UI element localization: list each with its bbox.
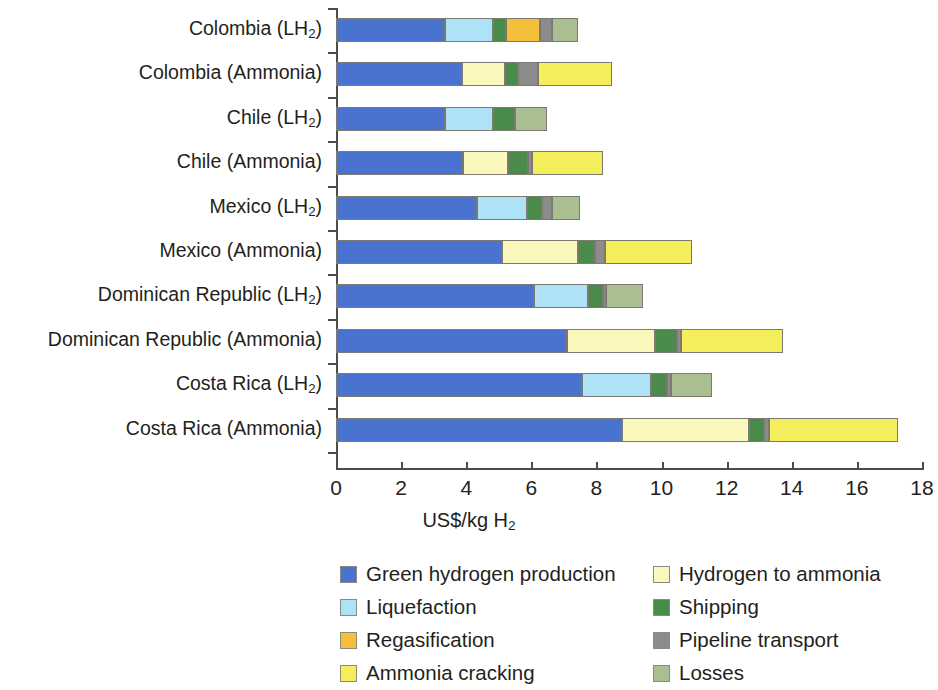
y-tick bbox=[328, 452, 336, 454]
bar-segment-shipping bbox=[493, 18, 506, 42]
bar-segment-pipeline-transport bbox=[595, 240, 605, 264]
bar-segment-ammonia-cracking bbox=[769, 418, 898, 442]
bar-segment-liquefaction bbox=[445, 18, 493, 42]
x-tick bbox=[922, 462, 924, 469]
legend-item-green-hydrogen-production[interactable]: Green hydrogen production bbox=[340, 564, 653, 585]
bar-segment-ammonia-cracking bbox=[532, 151, 603, 175]
legend-swatch-icon bbox=[653, 632, 670, 649]
y-axis-label: Colombia (Ammonia) bbox=[139, 63, 322, 83]
bar-segment-shipping bbox=[749, 418, 764, 442]
chart-legend: Green hydrogen productionHydrogen to amm… bbox=[340, 558, 938, 690]
y-tick bbox=[328, 230, 336, 232]
y-axis-label: Costa Rica (LH2) bbox=[176, 374, 322, 395]
y-tick bbox=[328, 8, 336, 10]
bar-segment-pipeline-transport bbox=[542, 196, 552, 220]
bar-segment-pipeline-transport bbox=[518, 62, 538, 86]
legend-label: Losses bbox=[679, 663, 744, 684]
legend-swatch-icon bbox=[340, 632, 357, 649]
legend-swatch-icon bbox=[340, 599, 357, 616]
x-tick-label: 4 bbox=[460, 477, 472, 498]
bar-segment-hydrogen-to-ammonia bbox=[463, 151, 508, 175]
legend-label: Regasification bbox=[366, 630, 495, 651]
bar-segment-liquefaction bbox=[445, 107, 493, 131]
y-axis-label-tail: ) bbox=[316, 17, 323, 39]
legend-item-losses[interactable]: Losses bbox=[653, 663, 938, 684]
bar-row bbox=[336, 284, 643, 308]
y-tick bbox=[328, 97, 336, 99]
bar-row bbox=[336, 107, 547, 131]
bar-row bbox=[336, 418, 898, 442]
bar-segment-liquefaction bbox=[582, 373, 651, 397]
x-tick bbox=[596, 462, 598, 469]
x-tick-label: 10 bbox=[650, 477, 673, 498]
bar-row bbox=[336, 373, 712, 397]
y-tick bbox=[328, 52, 336, 54]
bar-segment-shipping bbox=[508, 151, 528, 175]
legend-swatch-icon bbox=[653, 566, 670, 583]
bar-segment-losses bbox=[606, 284, 643, 308]
legend-label: Green hydrogen production bbox=[366, 564, 616, 585]
x-tick-label: 12 bbox=[715, 477, 738, 498]
bar-segment-green-hydrogen-production bbox=[336, 284, 534, 308]
bar-row bbox=[336, 240, 692, 264]
legend-label: Liquefaction bbox=[366, 597, 477, 618]
y-axis-label-subscript: 2 bbox=[308, 26, 315, 41]
bar-segment-green-hydrogen-production bbox=[336, 329, 567, 353]
bar-segment-ammonia-cracking bbox=[605, 240, 692, 264]
legend-item-liquefaction[interactable]: Liquefaction bbox=[340, 597, 653, 618]
bar-segment-shipping bbox=[578, 240, 595, 264]
bar-segment-ammonia-cracking bbox=[681, 329, 783, 353]
y-tick bbox=[328, 274, 336, 276]
bar-segment-green-hydrogen-production bbox=[336, 107, 445, 131]
legend-item-regasification[interactable]: Regasification bbox=[340, 630, 653, 651]
x-tick-label: 14 bbox=[780, 477, 803, 498]
y-axis-label-subscript: 2 bbox=[308, 292, 315, 307]
legend-item-pipeline-transport[interactable]: Pipeline transport bbox=[653, 630, 938, 651]
x-tick bbox=[401, 462, 403, 469]
legend-swatch-icon bbox=[653, 665, 670, 682]
legend-swatch-icon bbox=[653, 599, 670, 616]
legend-item-hydrogen-to-ammonia[interactable]: Hydrogen to ammonia bbox=[653, 564, 938, 585]
bar-row bbox=[336, 62, 612, 86]
x-tick-label: 2 bbox=[395, 477, 407, 498]
x-tick bbox=[662, 462, 664, 469]
y-axis-label-text: Chile (LH bbox=[227, 106, 308, 128]
y-axis-label-tail: ) bbox=[316, 106, 323, 128]
bar-segment-green-hydrogen-production bbox=[336, 151, 463, 175]
bar-segment-losses bbox=[552, 18, 578, 42]
y-axis-label-text: Dominican Republic (LH bbox=[98, 283, 308, 305]
bar-segment-pipeline-transport bbox=[540, 18, 552, 42]
hydrogen-cost-chart: Colombia (LH2)Colombia (Ammonia)Chile (L… bbox=[0, 0, 938, 690]
legend-label: Shipping bbox=[679, 597, 759, 618]
legend-swatch-icon bbox=[340, 665, 357, 682]
y-axis-label: Chile (LH2) bbox=[227, 108, 322, 129]
x-axis-title-subscript: 2 bbox=[508, 518, 516, 533]
bar-segment-hydrogen-to-ammonia bbox=[502, 240, 578, 264]
legend-label: Ammonia cracking bbox=[366, 663, 535, 684]
x-tick-label: 18 bbox=[910, 477, 933, 498]
x-tick bbox=[792, 462, 794, 469]
bar-segment-green-hydrogen-production bbox=[336, 18, 445, 42]
y-axis-label-subscript: 2 bbox=[308, 204, 315, 219]
x-tick-label: 8 bbox=[591, 477, 603, 498]
bar-segment-shipping bbox=[527, 196, 542, 220]
y-axis-label: Chile (Ammonia) bbox=[177, 152, 322, 172]
legend-swatch-icon bbox=[340, 566, 357, 583]
bar-segment-hydrogen-to-ammonia bbox=[622, 418, 749, 442]
bar-segment-shipping bbox=[588, 284, 603, 308]
bar-segment-green-hydrogen-production bbox=[336, 418, 622, 442]
bar-segment-hydrogen-to-ammonia bbox=[567, 329, 655, 353]
bar-segment-green-hydrogen-production bbox=[336, 240, 502, 264]
y-axis-category-labels: Colombia (LH2)Colombia (Ammonia)Chile (L… bbox=[0, 0, 330, 458]
x-axis-title: US$/kg H2 bbox=[0, 509, 938, 533]
legend-item-shipping[interactable]: Shipping bbox=[653, 597, 938, 618]
x-axis-title-text: US$/kg H bbox=[422, 509, 508, 531]
legend-item-ammonia-cracking[interactable]: Ammonia cracking bbox=[340, 663, 653, 684]
bar-row bbox=[336, 151, 603, 175]
y-tick bbox=[328, 186, 336, 188]
x-tick bbox=[857, 462, 859, 469]
bar-segment-regasification bbox=[506, 18, 540, 42]
bar-row bbox=[336, 196, 580, 220]
bar-segment-green-hydrogen-production bbox=[336, 62, 462, 86]
bar-segment-shipping bbox=[651, 373, 667, 397]
